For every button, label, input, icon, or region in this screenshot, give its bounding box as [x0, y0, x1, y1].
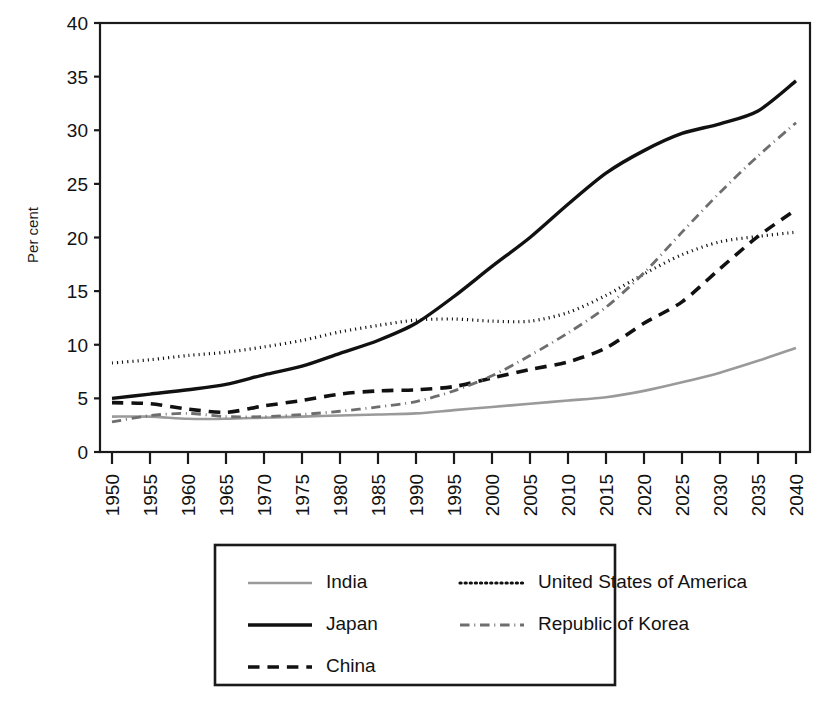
series-lines: [112, 81, 796, 422]
y-tick-label: 15: [67, 281, 88, 302]
x-tick-label: 2020: [634, 474, 655, 516]
series-line-japan: [112, 81, 796, 398]
series-line-republic-of-korea: [112, 123, 796, 422]
x-tick-label: 1975: [292, 474, 313, 516]
x-tick-label: 2010: [558, 474, 579, 516]
y-axis-tick-labels: 0510152025303540: [67, 13, 88, 463]
x-tick-label: 2005: [520, 474, 541, 516]
x-tick-label: 2000: [482, 474, 503, 516]
x-tick-label: 1980: [330, 474, 351, 516]
y-tick-label: 10: [67, 335, 88, 356]
y-axis-label: Per cent: [24, 206, 41, 263]
y-tick-label: 35: [67, 67, 88, 88]
legend-label-united-states-of-america: United States of America: [538, 571, 748, 592]
x-tick-label: 1950: [102, 474, 123, 516]
x-tick-label: 1955: [140, 474, 161, 516]
x-tick-label: 1990: [406, 474, 427, 516]
x-tick-label: 1995: [444, 474, 465, 516]
x-tick-label: 1970: [254, 474, 275, 516]
y-tick-label: 40: [67, 13, 88, 34]
x-tick-label: 1965: [216, 474, 237, 516]
x-tick-label: 2030: [710, 474, 731, 516]
y-tick-label: 20: [67, 228, 88, 249]
x-tick-label: 2015: [596, 474, 617, 516]
chart-container: Per cent 0510152025303540 19501955196019…: [0, 0, 830, 717]
y-tick-label: 5: [77, 388, 88, 409]
x-axis-tick-labels: 1950195519601965197019751980198519901995…: [102, 474, 807, 516]
legend-label-republic-of-korea: Republic of Korea: [538, 613, 689, 634]
x-axis-tick-marks: [112, 452, 796, 464]
x-tick-label: 2025: [672, 474, 693, 516]
y-tick-label: 25: [67, 174, 88, 195]
line-chart: Per cent 0510152025303540 19501955196019…: [0, 0, 830, 717]
legend-label-india: India: [326, 571, 368, 592]
series-line-india: [112, 348, 796, 419]
x-tick-label: 2040: [786, 474, 807, 516]
y-axis-label-text: Per cent: [24, 206, 41, 263]
y-tick-label: 0: [77, 442, 88, 463]
legend-label-japan: Japan: [326, 613, 378, 634]
x-tick-label: 2035: [748, 474, 769, 516]
series-line-china: [112, 210, 796, 413]
legend-label-china: China: [326, 655, 376, 676]
x-tick-label: 1960: [178, 474, 199, 516]
y-tick-label: 30: [67, 120, 88, 141]
x-tick-label: 1985: [368, 474, 389, 516]
